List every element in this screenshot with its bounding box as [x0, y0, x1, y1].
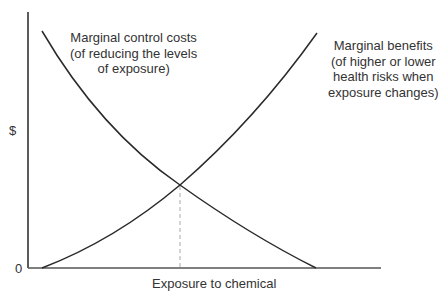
benefit-label-line-2: (of higher or lower — [328, 54, 439, 70]
benefit-label-line-4: exposure changes) — [328, 85, 439, 101]
benefit-label-line-1: Marginal benefits — [328, 38, 439, 54]
origin-label: 0 — [15, 261, 22, 277]
cost-label-line-2: (of reducing the levels — [70, 46, 197, 62]
marginal-control-costs-label: Marginal control costs (of reducing the … — [70, 30, 197, 77]
benefit-label-line-3: health risks when — [328, 69, 439, 85]
marginal-benefits-label: Marginal benefits (of higher or lower he… — [328, 38, 439, 100]
cost-label-line-1: Marginal control costs — [70, 30, 197, 46]
y-axis-label: $ — [9, 123, 16, 139]
cost-label-line-3: of exposure) — [70, 61, 197, 77]
x-axis-label: Exposure to chemical — [152, 276, 276, 292]
